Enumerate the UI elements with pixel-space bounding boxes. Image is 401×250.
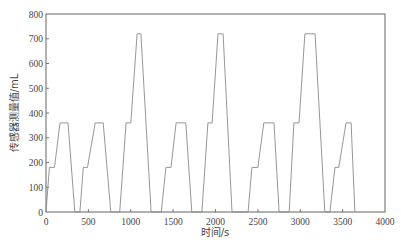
x-tick-label: 2000 (206, 217, 225, 227)
y-tick-label: 800 (29, 10, 44, 20)
y-tick-label: 100 (29, 183, 44, 193)
y-tick-label: 500 (29, 84, 44, 94)
x-tick-label: 500 (81, 217, 96, 227)
y-axis-title: 传感器测量值/mL (8, 73, 20, 152)
x-tick-label: 3000 (291, 217, 310, 227)
x-tick-label: 0 (44, 217, 49, 227)
x-tick-label: 3500 (333, 217, 352, 227)
x-tick-label: 1500 (164, 217, 183, 227)
y-tick-label: 200 (29, 158, 44, 168)
x-tick-label: 1000 (121, 217, 140, 227)
y-tick-label: 300 (29, 133, 44, 143)
y-tick-label: 0 (38, 208, 43, 218)
x-axis-title: 时间/s (201, 226, 230, 238)
y-tick-label: 400 (29, 109, 44, 119)
x-tick-label: 4000 (376, 217, 395, 227)
plot-frame (46, 14, 385, 212)
y-tick-label: 700 (29, 34, 44, 44)
chart: 0100200300400500600700800 05001000150020… (0, 0, 401, 250)
sensor-series-line (46, 34, 355, 212)
y-tick-label: 600 (29, 59, 44, 69)
x-tick-label: 2500 (248, 217, 267, 227)
